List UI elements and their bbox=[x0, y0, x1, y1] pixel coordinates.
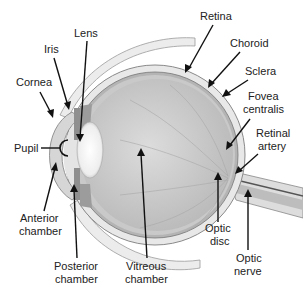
svg-text:disc: disc bbox=[210, 235, 230, 247]
svg-text:Optic: Optic bbox=[236, 252, 262, 264]
svg-text:Choroid: Choroid bbox=[230, 37, 269, 49]
ciliary-body-lower bbox=[80, 184, 92, 208]
svg-text:Anterior: Anterior bbox=[20, 212, 59, 224]
svg-text:Vitreous: Vitreous bbox=[126, 260, 167, 272]
svg-text:Retina: Retina bbox=[200, 10, 233, 22]
eye-anatomy-diagram: Lens Iris Cornea Pupil Anterior chamber … bbox=[0, 0, 303, 293]
label-choroid: Choroid bbox=[208, 37, 269, 88]
svg-text:Iris: Iris bbox=[44, 43, 59, 55]
svg-text:Fovea: Fovea bbox=[248, 90, 279, 102]
svg-text:Optic: Optic bbox=[205, 222, 231, 234]
svg-text:nerve: nerve bbox=[234, 265, 262, 277]
svg-text:Sclera: Sclera bbox=[245, 65, 277, 77]
svg-text:Pupil: Pupil bbox=[14, 142, 38, 154]
svg-text:chamber: chamber bbox=[19, 225, 62, 237]
vitreous-chamber bbox=[81, 79, 233, 231]
svg-text:Retinal: Retinal bbox=[256, 127, 290, 139]
svg-text:Cornea: Cornea bbox=[16, 76, 53, 88]
svg-text:artery: artery bbox=[258, 140, 287, 152]
svg-text:Posterior: Posterior bbox=[54, 260, 98, 272]
svg-text:chamber: chamber bbox=[125, 273, 168, 285]
svg-text:chamber: chamber bbox=[55, 273, 98, 285]
label-cornea: Cornea bbox=[16, 76, 54, 118]
svg-text:centralis: centralis bbox=[243, 103, 284, 115]
svg-text:Lens: Lens bbox=[74, 27, 98, 39]
